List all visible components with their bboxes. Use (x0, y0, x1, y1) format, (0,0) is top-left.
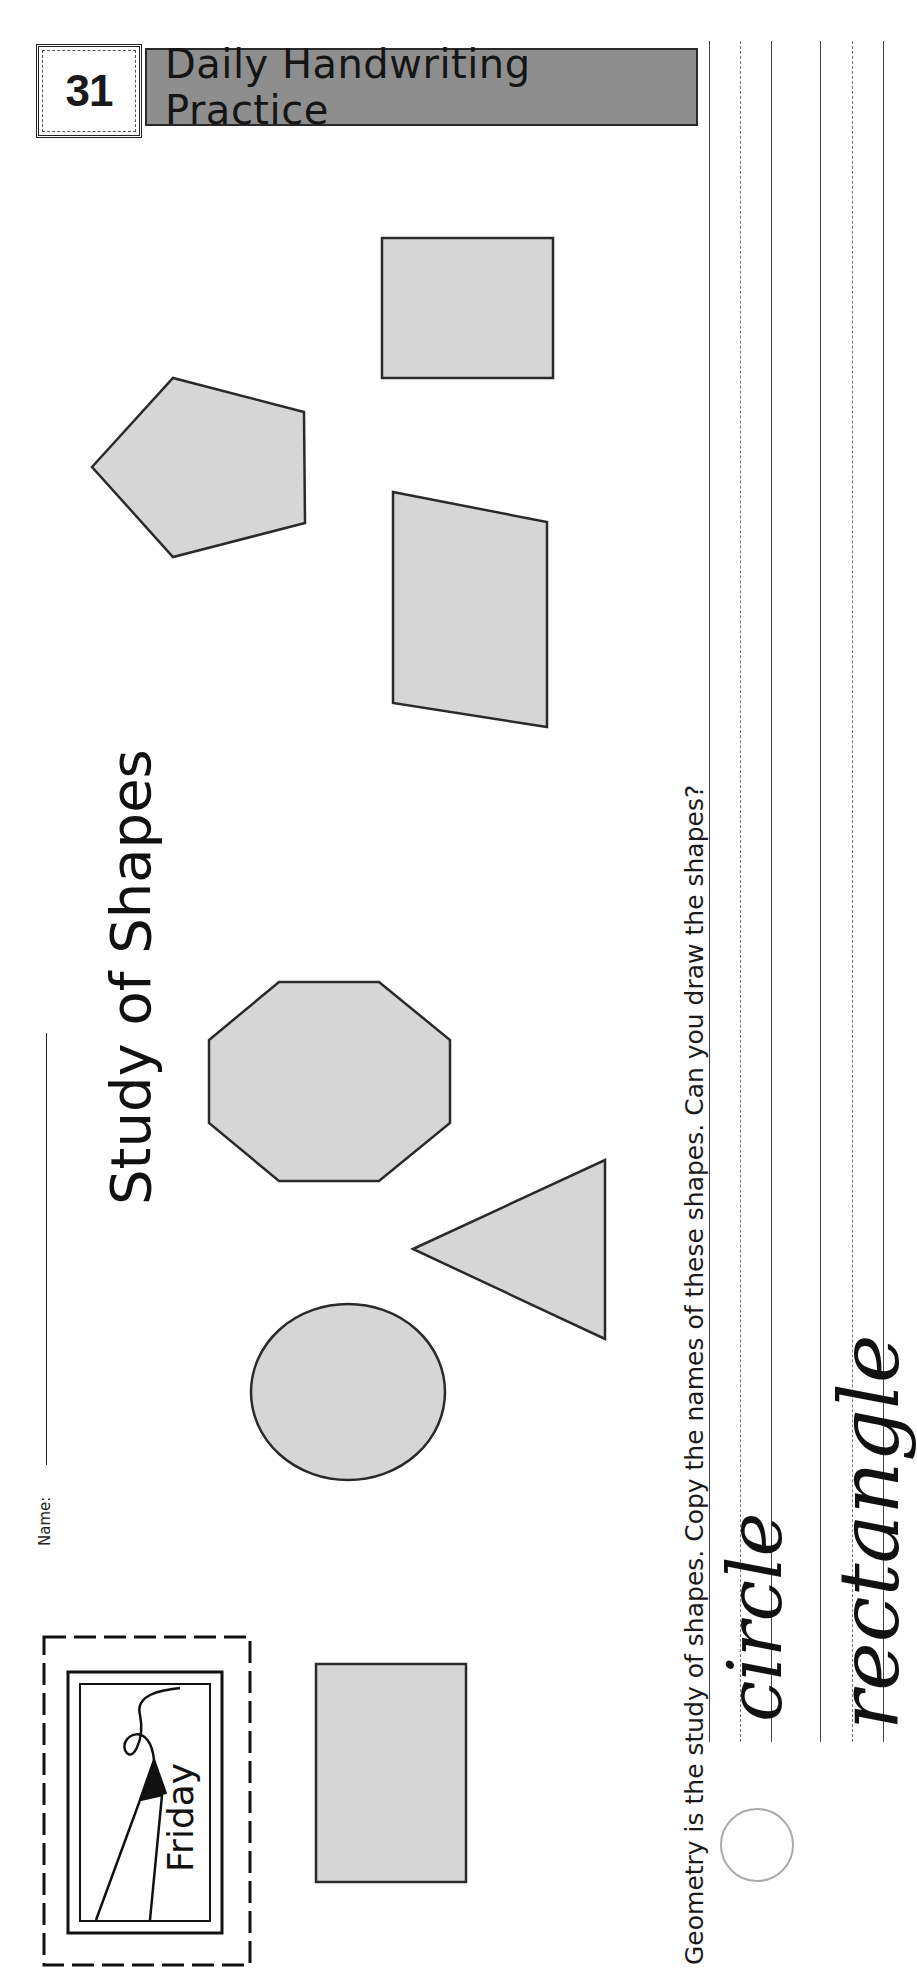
circle-trace-guide-icon (720, 1808, 794, 1882)
name-label: Name: (36, 1497, 54, 1546)
octagon-shape (209, 982, 450, 1181)
rectangle-shape (316, 1664, 466, 1882)
triangle-shape (413, 1160, 605, 1339)
pentagon-shape (92, 378, 305, 557)
day-label: Friday (160, 1763, 201, 1872)
circle-shape (251, 1304, 445, 1480)
friday-stamp-icon (44, 1637, 250, 1965)
practice-word-circle: circle (712, 1513, 798, 1722)
practice-word-rectangle: rectangle (822, 1334, 917, 1730)
page-title: Study of Shapes (98, 749, 163, 1205)
name-input-line[interactable] (46, 1033, 47, 1465)
square-shape (382, 238, 553, 378)
instructions: Geometry is the study of shapes. Copy th… (680, 785, 709, 1965)
parallelogram-shape (393, 492, 547, 727)
